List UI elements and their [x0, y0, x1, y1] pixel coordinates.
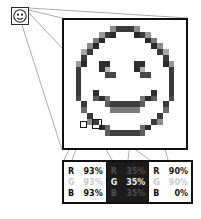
rgb-row-b: B 0%	[153, 188, 188, 199]
rgb-channel-value: 35%	[126, 188, 145, 199]
pixel-face-render	[64, 20, 186, 148]
rgb-channel-value: 93%	[84, 177, 103, 188]
figure-canvas: small smiley face image enlarged pixelat…	[0, 0, 201, 219]
rgb-cell-yellow[interactable]: R 90% G 90% B 0%	[149, 162, 191, 202]
rgb-channel-label: B	[153, 188, 162, 199]
magnified-pixel-grid[interactable]: enlarged pixelated smiley face showing i…	[62, 18, 188, 150]
callout-line-thumb-top	[29, 8, 188, 18]
rgb-row-g: G 90%	[153, 177, 188, 188]
rgb-channel-value: 0%	[174, 188, 188, 199]
callout-line-thumb-bottom	[22, 25, 62, 150]
callout-line-thumb-corner	[29, 10, 62, 18]
rgb-channel-label: G	[68, 177, 77, 188]
rgb-channel-label: R	[111, 166, 120, 177]
rgb-channel-value: 90%	[169, 166, 188, 177]
rgb-channel-label: G	[153, 177, 162, 188]
rgb-readout-table[interactable]: R 93% G 93% B 93% R 35% G 35% B	[62, 160, 193, 204]
rgb-row-g: G 35%	[111, 177, 146, 188]
rgb-channel-value: 93%	[84, 166, 103, 177]
rgb-channel-value: 93%	[84, 188, 103, 199]
rgb-row-r: R 90%	[153, 166, 188, 177]
rgb-row-b: B 35%	[111, 188, 146, 199]
rgb-cell-dark[interactable]: R 35% G 35% B 35%	[107, 162, 150, 202]
callout-line-thumb-mid	[29, 13, 62, 48]
rgb-channel-label: R	[153, 166, 162, 177]
rgb-channel-value: 35%	[126, 166, 145, 177]
rgb-row-g: G 93%	[68, 177, 103, 188]
rgb-channel-label: R	[68, 166, 77, 177]
rgb-channel-label: G	[111, 177, 120, 188]
white-pixel-marker[interactable]	[80, 121, 87, 128]
smiley-icon	[12, 8, 28, 24]
rgb-channel-label: B	[68, 188, 77, 199]
rgb-channel-label: B	[111, 188, 120, 199]
rgb-channel-value: 35%	[126, 177, 145, 188]
smiley-face-thumbnail[interactable]: small smiley face image	[11, 7, 29, 25]
rgb-row-r: R 35%	[111, 166, 146, 177]
rgb-channel-value: 90%	[169, 177, 188, 188]
rgb-row-r: R 93%	[68, 166, 103, 177]
sampled-pixel-marker[interactable]	[92, 119, 102, 129]
rgb-row-b: B 93%	[68, 188, 103, 199]
rgb-cell-white[interactable]: R 93% G 93% B 93%	[64, 162, 107, 202]
